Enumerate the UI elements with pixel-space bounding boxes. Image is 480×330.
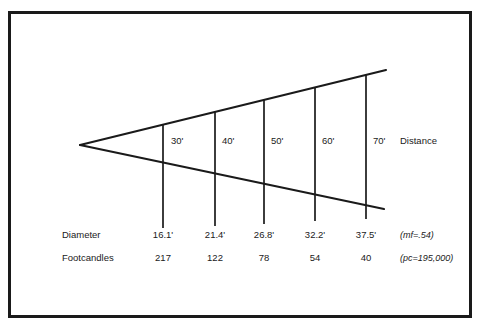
footcandles-value-50: 78: [259, 253, 270, 263]
diameter-value-60: 32.2': [305, 230, 325, 240]
beam-spread-drawing: [0, 0, 480, 330]
annotation-peak-candela: (pc=195,000): [400, 254, 453, 263]
annotation-maintenance-factor: (mf=.54): [400, 231, 434, 240]
cone-upper-edge: [80, 70, 386, 145]
footcandles-value-40: 122: [207, 253, 223, 263]
distance-label-50: 50': [271, 136, 283, 146]
diameter-value-50: 26.8': [254, 230, 274, 240]
distance-label-40: 40': [222, 136, 234, 146]
distance-label-60: 60': [322, 136, 334, 146]
row-header-diameter: Diameter: [62, 230, 101, 240]
diameter-value-70: 37.5': [356, 230, 376, 240]
row-header-footcandles: Footcandles: [62, 253, 114, 263]
diameter-value-30: 16.1': [153, 230, 173, 240]
footcandles-value-30: 217: [155, 253, 171, 263]
cone-lower-edge: [80, 145, 384, 209]
diameter-value-40: 21.4': [205, 230, 225, 240]
distance-axis-label: Distance: [400, 136, 437, 146]
footcandles-value-70: 40: [361, 253, 372, 263]
diagram-page: 30' 40' 50' 60' 70' Distance Diameter 16…: [0, 0, 480, 330]
distance-label-70: 70': [373, 136, 385, 146]
distance-label-30: 30': [171, 136, 183, 146]
footcandles-value-60: 54: [310, 253, 321, 263]
